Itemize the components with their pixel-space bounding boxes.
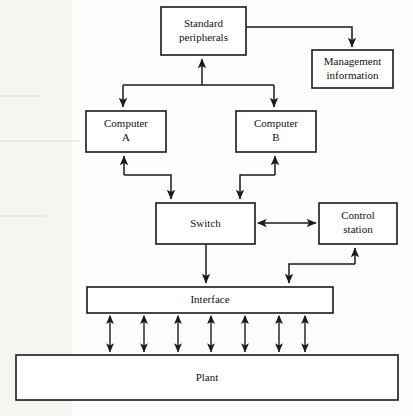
node-label-standard-peripherals-line2: peripherals bbox=[179, 31, 228, 43]
node-label-switch: Switch bbox=[190, 217, 221, 229]
node-computer-a[interactable]: Computer A bbox=[86, 111, 166, 152]
node-label-control-station-line2: station bbox=[343, 223, 373, 235]
connection-interface-to-plant bbox=[110, 316, 305, 352]
connection-control-station-to-interface bbox=[289, 248, 355, 283]
node-label-management-information-line2: information bbox=[327, 69, 379, 81]
node-label-interface: Interface bbox=[190, 293, 229, 305]
connection-computer-a-to-switch bbox=[124, 156, 171, 199]
connection-peripherals-to-management bbox=[246, 27, 352, 47]
diagram-canvas: Standard peripherals Management informat… bbox=[0, 0, 413, 416]
block-diagram: Standard peripherals Management informat… bbox=[0, 0, 413, 416]
node-standard-peripherals[interactable]: Standard peripherals bbox=[161, 7, 246, 55]
node-control-station[interactable]: Control station bbox=[319, 203, 397, 244]
node-label-computer-b-line2: B bbox=[272, 131, 279, 143]
node-computer-b[interactable]: Computer B bbox=[236, 111, 316, 152]
node-label-standard-peripherals-line1: Standard bbox=[184, 17, 224, 29]
node-management-information[interactable]: Management information bbox=[312, 50, 393, 88]
node-label-computer-a-line2: A bbox=[122, 131, 130, 143]
node-label-computer-a-line1: Computer bbox=[104, 117, 148, 129]
connection-computer-b-to-switch bbox=[240, 156, 275, 199]
node-label-management-information-line1: Management bbox=[324, 55, 381, 67]
node-switch[interactable]: Switch bbox=[156, 203, 255, 244]
node-label-computer-b-line1: Computer bbox=[254, 117, 298, 129]
node-label-control-station-line1: Control bbox=[341, 209, 375, 221]
node-plant[interactable]: Plant bbox=[16, 355, 398, 400]
node-label-plant: Plant bbox=[196, 371, 219, 383]
node-interface[interactable]: Interface bbox=[87, 287, 333, 313]
